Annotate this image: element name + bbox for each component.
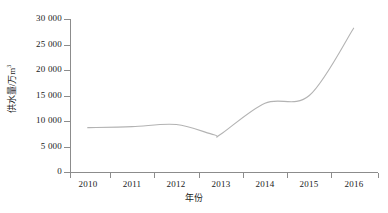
series-line-supply <box>88 28 354 137</box>
line-chart-figure: 05 00010 00015 00020 00025 00030 000 201… <box>0 0 388 213</box>
plot-area <box>0 0 388 213</box>
